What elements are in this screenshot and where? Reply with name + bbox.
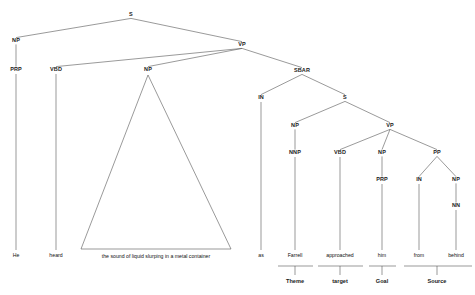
tree-node-NP-subj: NP bbox=[12, 38, 20, 44]
semantic-role-r-target: target bbox=[332, 279, 348, 285]
tree-edge-VP-main-to-NP-obj bbox=[148, 48, 242, 66]
tree-edge-VP-main-to-SBAR bbox=[242, 48, 302, 67]
tree-edge-layer bbox=[16, 18, 456, 202]
tree-node-VBD-heard: VBD bbox=[50, 67, 62, 73]
tree-node-SBAR: SBAR bbox=[294, 68, 310, 74]
tree-node-IN-from: IN bbox=[416, 177, 422, 183]
tree-terminal-t-heard: heard bbox=[49, 253, 62, 258]
tree-node-PRP-him: PRP bbox=[376, 177, 388, 183]
tree-terminal-t-him: him bbox=[378, 253, 386, 258]
tree-edge-PP-to-NP-behind bbox=[437, 156, 456, 176]
tree-terminal-t-approached: approached bbox=[326, 253, 353, 258]
tree-terminal-t-behind: behind bbox=[448, 253, 464, 258]
role-bracket-layer bbox=[278, 266, 472, 275]
tree-edge-S-sub-to-VP-sub bbox=[345, 101, 390, 122]
tree-edge-SBAR-to-S-sub bbox=[302, 74, 345, 94]
tree-node-VP-main: VP bbox=[238, 42, 246, 48]
tree-node-NP-farrell: NP bbox=[291, 123, 299, 129]
tree-node-NP-behind: NP bbox=[452, 177, 460, 183]
tree-node-PRP-he: PRP bbox=[10, 67, 22, 73]
tree-node-S-root: S bbox=[129, 12, 133, 18]
semantic-role-r-source: Source bbox=[428, 279, 447, 285]
tree-edge-VP-main-to-VBD-heard bbox=[56, 48, 242, 66]
tree-node-VBD-appr: VBD bbox=[334, 150, 346, 156]
tree-edge-PP-to-IN-from bbox=[419, 156, 437, 176]
tree-node-NN: NN bbox=[452, 203, 460, 209]
np-triangle bbox=[81, 75, 231, 249]
tree-node-NNP: NNP bbox=[289, 150, 301, 156]
tree-node-VP-sub: VP bbox=[386, 123, 394, 129]
tree-node-NP-obj: NP bbox=[144, 67, 152, 73]
semantic-role-r-theme: Theme bbox=[286, 279, 304, 285]
tree-node-S-sub: S bbox=[343, 95, 347, 101]
tree-edge-S-root-to-NP-subj bbox=[16, 18, 131, 37]
tree-terminal-t-farrell: Farrell bbox=[288, 253, 303, 258]
tree-terminal-t-as: as bbox=[258, 253, 263, 258]
tree-node-NP-him: NP bbox=[378, 150, 386, 156]
tree-terminal-t-phrase: the sound of liquid slurping in a metal … bbox=[102, 254, 210, 259]
tree-edge-VP-sub-to-VBD-appr bbox=[340, 129, 390, 149]
semantic-role-r-goal: Goal bbox=[376, 279, 388, 285]
tree-terminal-t-from: from bbox=[414, 253, 424, 258]
tree-node-IN-as: IN bbox=[258, 95, 264, 101]
tree-edge-S-sub-to-NP-farrell bbox=[295, 101, 345, 122]
tree-node-PP: PP bbox=[433, 150, 441, 156]
np-triangle-layer bbox=[81, 75, 231, 249]
tree-edge-S-root-to-VP-main bbox=[131, 18, 242, 41]
tree-edge-SBAR-to-IN-as bbox=[261, 74, 302, 94]
tree-edge-VP-sub-to-PP bbox=[390, 129, 437, 149]
tree-stem-layer bbox=[16, 74, 456, 250]
tree-terminal-t-he: He bbox=[13, 253, 20, 258]
